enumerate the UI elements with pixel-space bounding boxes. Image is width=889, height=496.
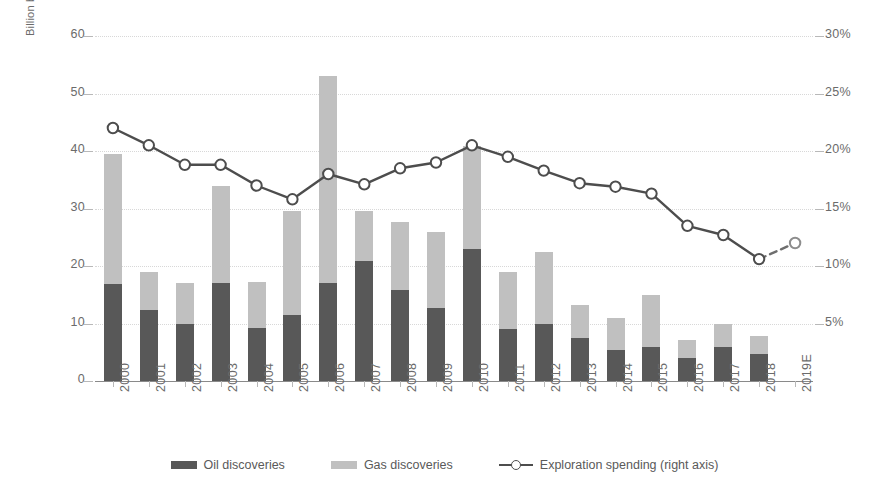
x-tick-mark-2011 bbox=[508, 381, 509, 387]
x-tick-label-2006: 2006 bbox=[333, 363, 347, 392]
line-marker-2003 bbox=[215, 160, 225, 170]
x-tick-label-2017: 2017 bbox=[728, 363, 742, 392]
legend-item-oil: Oil discoveries bbox=[171, 458, 285, 472]
y-tick-left-10: 10 bbox=[70, 315, 85, 329]
x-tick-mark-2007 bbox=[364, 381, 365, 387]
x-tick-label-2018: 2018 bbox=[764, 363, 778, 392]
exploration-spending-line bbox=[95, 36, 813, 381]
exploration-discoveries-chart: Billion boe 01020304050605%10%15%20%25%3… bbox=[0, 0, 889, 496]
x-tick-mark-2005 bbox=[292, 381, 293, 387]
x-tick-label-2011: 2011 bbox=[513, 364, 527, 392]
line-marker-2015 bbox=[646, 188, 656, 198]
y-tick-left-0: 0 bbox=[78, 372, 85, 386]
x-tick-label-2013: 2013 bbox=[585, 363, 599, 392]
x-tick-label-2016: 2016 bbox=[692, 363, 706, 392]
x-tick-label-2007: 2007 bbox=[369, 363, 383, 392]
line-marker-2011 bbox=[503, 152, 513, 162]
x-tick-label-2001: 2001 bbox=[154, 363, 168, 392]
x-tick-mark-2012 bbox=[544, 381, 545, 387]
line-marker-2019E bbox=[790, 238, 800, 248]
x-tick-mark-2018 bbox=[759, 381, 760, 387]
x-tick-label-2019E: 2019E bbox=[800, 354, 814, 392]
x-axis-tick-labels: 2000200120022003200420052006200720082009… bbox=[95, 388, 813, 448]
line-marker-2006 bbox=[323, 169, 333, 179]
line-marker-2010 bbox=[467, 140, 477, 150]
y-tick-mark-left-0 bbox=[84, 381, 93, 382]
y-tick-mark-right-10 bbox=[815, 266, 824, 267]
gas-swatch-icon bbox=[331, 461, 357, 469]
line-marker-2009 bbox=[431, 157, 441, 167]
y-tick-right-10: 10% bbox=[825, 257, 851, 271]
y-tick-right-30: 30% bbox=[825, 27, 851, 41]
oil-swatch-icon bbox=[171, 461, 197, 469]
line-marker-2017 bbox=[718, 230, 728, 240]
x-tick-mark-2016 bbox=[687, 381, 688, 387]
y-tick-right-20: 20% bbox=[825, 142, 851, 156]
x-tick-label-2010: 2010 bbox=[477, 363, 491, 392]
y-tick-right-5: 5% bbox=[825, 315, 844, 329]
line-marker-2000 bbox=[108, 123, 118, 133]
x-tick-label-2009: 2009 bbox=[441, 363, 455, 392]
line-marker-2004 bbox=[251, 180, 261, 190]
legend-item-gas: Gas discoveries bbox=[331, 458, 453, 472]
x-tick-mark-2000 bbox=[113, 381, 114, 387]
line-segment-actual bbox=[113, 128, 759, 259]
x-tick-mark-2002 bbox=[185, 381, 186, 387]
y-tick-mark-left-20 bbox=[84, 266, 93, 267]
legend-label-oil: Oil discoveries bbox=[204, 458, 285, 472]
y-axis-label-left: Billion boe bbox=[24, 0, 36, 36]
x-tick-mark-2003 bbox=[221, 381, 222, 387]
legend-label-gas: Gas discoveries bbox=[364, 458, 453, 472]
y-tick-mark-left-50 bbox=[84, 94, 93, 95]
x-tick-mark-2009 bbox=[436, 381, 437, 387]
x-tick-mark-2014 bbox=[616, 381, 617, 387]
y-tick-mark-left-10 bbox=[84, 324, 93, 325]
x-tick-label-2004: 2004 bbox=[262, 363, 276, 392]
y-tick-mark-right-5 bbox=[815, 324, 824, 325]
x-tick-mark-2013 bbox=[580, 381, 581, 387]
line-marker-2018 bbox=[754, 254, 764, 264]
y-tick-mark-left-40 bbox=[84, 151, 93, 152]
line-marker-2007 bbox=[359, 179, 369, 189]
y-tick-mark-right-30 bbox=[815, 36, 824, 37]
chart-legend: Oil discoveries Gas discoveries Explorat… bbox=[0, 458, 889, 472]
y-tick-mark-left-30 bbox=[84, 209, 93, 210]
x-tick-mark-2008 bbox=[400, 381, 401, 387]
legend-item-exploration-spending: Exploration spending (right axis) bbox=[499, 458, 719, 472]
x-tick-label-2012: 2012 bbox=[549, 363, 563, 392]
line-marker-2012 bbox=[539, 165, 549, 175]
y-tick-right-15: 15% bbox=[825, 200, 851, 214]
x-tick-label-2005: 2005 bbox=[297, 363, 311, 392]
x-tick-mark-2015 bbox=[651, 381, 652, 387]
x-tick-mark-2019E bbox=[795, 381, 796, 387]
x-tick-mark-2010 bbox=[472, 381, 473, 387]
y-tick-left-50: 50 bbox=[70, 85, 85, 99]
x-tick-mark-2004 bbox=[257, 381, 258, 387]
line-marker-2001 bbox=[144, 140, 154, 150]
y-tick-right-25: 25% bbox=[825, 85, 851, 99]
legend-label-exploration-spending: Exploration spending (right axis) bbox=[540, 458, 719, 472]
y-tick-mark-right-25 bbox=[815, 94, 824, 95]
x-tick-label-2000: 2000 bbox=[118, 363, 132, 392]
y-tick-mark-right-15 bbox=[815, 209, 824, 210]
y-tick-left-60: 60 bbox=[70, 27, 85, 41]
x-tick-label-2002: 2002 bbox=[190, 363, 204, 392]
plot-area: 01020304050605%10%15%20%25%30% bbox=[95, 36, 813, 381]
x-tick-label-2015: 2015 bbox=[656, 363, 670, 392]
x-tick-label-2003: 2003 bbox=[226, 363, 240, 392]
y-tick-left-40: 40 bbox=[70, 142, 85, 156]
x-tick-mark-2006 bbox=[328, 381, 329, 387]
y-tick-mark-right-20 bbox=[815, 151, 824, 152]
y-tick-left-20: 20 bbox=[70, 257, 85, 271]
line-marker-2002 bbox=[180, 160, 190, 170]
x-tick-label-2008: 2008 bbox=[405, 363, 419, 392]
line-marker-2016 bbox=[682, 221, 692, 231]
line-marker-2008 bbox=[395, 163, 405, 173]
x-tick-mark-2017 bbox=[723, 381, 724, 387]
x-tick-mark-2001 bbox=[149, 381, 150, 387]
y-tick-left-30: 30 bbox=[70, 200, 85, 214]
line-marker-icon bbox=[499, 460, 533, 470]
x-tick-label-2014: 2014 bbox=[621, 363, 635, 392]
line-marker-2014 bbox=[610, 182, 620, 192]
line-marker-2005 bbox=[287, 194, 297, 204]
